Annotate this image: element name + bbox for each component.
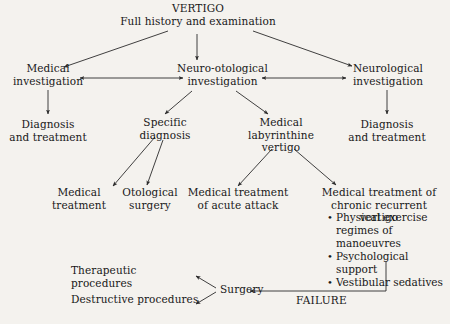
node-medical-labyrinthine-vertigo: Medical labyrinthine vertigo bbox=[243, 116, 319, 154]
node-neurological-investigation: Neurological investigation bbox=[345, 62, 431, 87]
node-surgery: Surgery bbox=[220, 283, 270, 296]
list-item: Physical exercise regimes of manoeuvres bbox=[327, 211, 449, 250]
edge-neuro-to-specific bbox=[165, 91, 192, 114]
edge-labyrinthine-to-acute bbox=[238, 149, 272, 186]
node-medical-investigation: Medical investigation bbox=[8, 62, 88, 87]
node-root-title: VERTIGO bbox=[150, 2, 246, 15]
list-item: Psychological support bbox=[327, 250, 449, 276]
edge-specific-to-medical-treatment bbox=[113, 137, 155, 186]
list-item: Vestibular sedatives bbox=[327, 276, 449, 289]
node-otological-surgery: Otological surgery bbox=[116, 186, 184, 211]
node-medical-treatment-acute: Medical treatment of acute attack bbox=[182, 186, 294, 211]
node-destructive-procedures: Destructive procedures bbox=[71, 293, 199, 306]
node-medical-treatment: Medical treatment bbox=[45, 186, 113, 211]
chronic-treatment-bullet-list: Physical exercise regimes of manoeuvres … bbox=[327, 211, 449, 289]
node-neuro-otological-investigation: Neuro-otological investigation bbox=[170, 62, 275, 87]
node-therapeutic-procedures: Therapeutic procedures bbox=[71, 264, 199, 289]
edge-root-to-neurological bbox=[253, 31, 352, 66]
node-diagnosis-treatment-right: Diagnosis and treatment bbox=[341, 118, 433, 143]
edge-specific-to-otological-surgery bbox=[147, 140, 163, 185]
edge-surgery-to-destructive bbox=[196, 292, 216, 304]
node-diagnosis-treatment-left: Diagnosis and treatment bbox=[2, 118, 94, 143]
flowchart-diagram: VERTIGO Full history and examination Med… bbox=[0, 0, 450, 324]
edge-neuro-to-labyrinthine bbox=[236, 91, 268, 114]
edge-surgery-to-therapeutic bbox=[196, 276, 216, 288]
label-failure: FAILURE bbox=[296, 294, 347, 306]
node-root-subtitle: Full history and examination bbox=[118, 15, 278, 28]
edge-labyrinthine-to-chronic bbox=[294, 149, 336, 185]
node-specific-diagnosis: Specific diagnosis bbox=[128, 116, 202, 141]
